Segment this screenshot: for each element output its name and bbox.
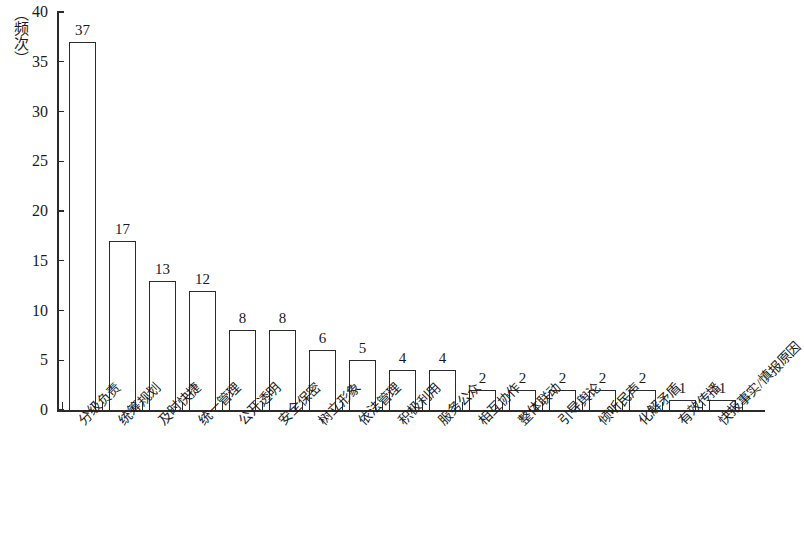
- bar: [69, 42, 96, 410]
- y-axis-tick-label: 20: [22, 203, 48, 219]
- bar-value-label: 37: [59, 23, 106, 38]
- y-axis-tick: [57, 11, 64, 12]
- y-axis-tick-label: 10: [22, 303, 48, 319]
- y-axis-tick-label: 35: [22, 54, 48, 70]
- y-axis-tick: [57, 61, 64, 62]
- y-axis-tick-label: 25: [22, 153, 48, 169]
- y-axis-tick: [57, 111, 64, 112]
- bar-value-label: 17: [99, 222, 146, 237]
- y-axis-tick: [57, 210, 64, 211]
- bar-value-label: 4: [419, 351, 466, 366]
- y-axis-tick-label: 15: [22, 253, 48, 269]
- y-axis-tick: [57, 360, 64, 361]
- y-axis-tick-label: 5: [22, 352, 48, 368]
- bar-value-label: 8: [259, 311, 306, 326]
- x-axis-tick: [62, 402, 63, 411]
- bar-value-label: 12: [179, 272, 226, 287]
- y-axis-tick: [57, 310, 64, 311]
- y-axis-tick-label: 30: [22, 104, 48, 120]
- y-axis-tick: [57, 161, 64, 162]
- y-axis-tick-label: 40: [22, 4, 48, 20]
- y-axis-tick-label: 0: [22, 402, 48, 418]
- y-axis-tick: [57, 260, 64, 261]
